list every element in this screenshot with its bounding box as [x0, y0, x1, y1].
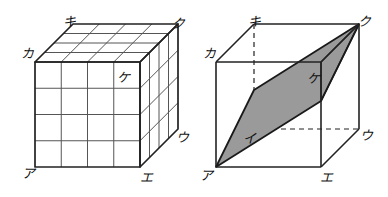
- label-right-a: ア: [200, 168, 215, 183]
- left-panel-subdivided-cube: [35, 24, 178, 167]
- label-right-ka: カ: [203, 46, 216, 61]
- label-right-ke: ケ: [307, 71, 321, 86]
- label-right-ku: ク: [358, 14, 372, 29]
- figure-root: ア エ ウ ク キ カ ケ ア イ エ ウ ク キ カ ケ: [0, 0, 388, 197]
- right-panel-cross-section-cube: [216, 24, 359, 167]
- label-left-e: エ: [140, 170, 154, 185]
- label-left-a: ア: [22, 166, 37, 181]
- label-left-ka: カ: [21, 46, 34, 61]
- label-left-ku: ク: [172, 16, 186, 31]
- cube-diagram-svg: ア エ ウ ク キ カ ケ ア イ エ ウ ク キ カ ケ: [0, 0, 388, 197]
- label-left-ke: ケ: [117, 70, 131, 85]
- label-left-u: ウ: [176, 130, 190, 145]
- label-right-e: エ: [320, 170, 334, 185]
- label-right-u: ウ: [360, 128, 374, 143]
- label-right-i: イ: [243, 131, 257, 146]
- label-right-ki: キ: [248, 14, 261, 29]
- label-left-ki: キ: [63, 14, 76, 29]
